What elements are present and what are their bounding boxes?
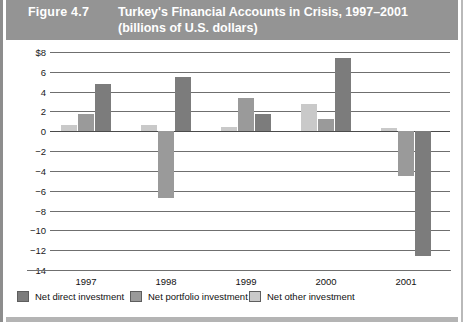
gridline--8 xyxy=(50,211,450,212)
y-axis-tick-label: −12 xyxy=(12,245,46,256)
gridline--4 xyxy=(50,171,450,172)
gridline--6 xyxy=(50,191,450,192)
gridline--10 xyxy=(50,230,450,231)
figure-container: Figure 4.7 Turkey's Financial Accounts i… xyxy=(0,0,463,322)
legend-item: Net direct investment xyxy=(17,291,124,302)
y-axis-tick-label: 0 xyxy=(12,126,46,137)
plot-area xyxy=(50,52,450,270)
gridline-0 xyxy=(50,131,450,132)
bar xyxy=(141,125,157,131)
bar xyxy=(61,125,77,131)
y-axis-tick-label: 4 xyxy=(12,86,46,97)
y-axis-tick-label: 6 xyxy=(12,66,46,77)
x-axis-tick-label: 1997 xyxy=(56,276,116,287)
legend-swatch-icon xyxy=(17,291,29,302)
bar xyxy=(415,131,431,256)
y-axis-tick-label: $8 xyxy=(12,47,46,58)
x-axis-tick-label: 2000 xyxy=(296,276,356,287)
figure-title-line-2: (billions of U.S. dollars) xyxy=(118,20,454,36)
bar xyxy=(301,104,317,132)
bar xyxy=(255,114,271,131)
x-axis-tick-label: 1998 xyxy=(136,276,196,287)
legend-label: Net other investment xyxy=(267,291,355,302)
legend-label: Net portfolio investment xyxy=(148,291,248,302)
x-axis-line xyxy=(27,270,451,271)
y-axis-tick-label: 2 xyxy=(12,106,46,117)
y-axis-tick-label: −10 xyxy=(12,225,46,236)
bar xyxy=(335,58,351,131)
gridline-8 xyxy=(50,52,450,53)
y-axis-tick-label: −2 xyxy=(12,146,46,157)
gridline--12 xyxy=(50,250,450,251)
bar xyxy=(175,77,191,132)
bar xyxy=(78,114,94,131)
bar xyxy=(221,127,237,131)
figure-number: Figure 4.7 xyxy=(28,5,89,19)
y-axis-tick-label: −6 xyxy=(12,185,46,196)
bar xyxy=(238,98,254,132)
y-axis-labels: $86420−2−4−6−8−10−12−14 xyxy=(8,52,46,270)
bar xyxy=(95,84,111,132)
legend-item: Net portfolio investment xyxy=(130,291,248,302)
gridline-6 xyxy=(50,72,450,73)
y-axis-tick-label: −4 xyxy=(12,165,46,176)
gridline--2 xyxy=(50,151,450,152)
legend-swatch-icon xyxy=(249,291,261,302)
bar xyxy=(381,128,397,131)
legend-label: Net direct investment xyxy=(35,291,124,302)
bar xyxy=(398,131,414,176)
bar xyxy=(318,119,334,131)
legend-swatch-icon xyxy=(130,291,142,302)
figure-header: Figure 4.7 Turkey's Financial Accounts i… xyxy=(6,0,458,40)
x-axis-tick-label: 1999 xyxy=(216,276,276,287)
legend-item: Net other investment xyxy=(249,291,355,302)
x-axis-tick-label: 2001 xyxy=(376,276,436,287)
figure-title-line-1: Turkey's Financial Accounts in Crisis, 1… xyxy=(118,4,454,20)
y-axis-tick-label: −8 xyxy=(12,205,46,216)
figure-title: Turkey's Financial Accounts in Crisis, 1… xyxy=(118,4,454,36)
bar xyxy=(158,131,174,197)
footer-bar xyxy=(6,317,458,322)
